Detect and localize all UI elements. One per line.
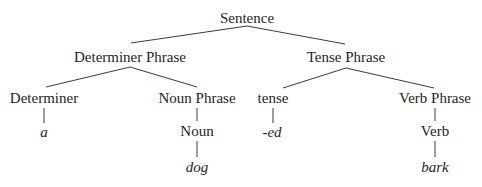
node-determiner: Determiner [10, 91, 78, 106]
leaf-a: a [40, 125, 48, 140]
leaf-bark: bark [421, 160, 449, 175]
syntax-tree-diagram: Sentence Determiner Phrase Tense Phrase … [0, 0, 482, 187]
leaf-dog: dog [186, 160, 209, 175]
node-verb-phrase: Verb Phrase [399, 91, 471, 106]
edge-determiner-phrase-noun-phrase [130, 67, 197, 87]
edge-sentence-determiner-phrase [131, 26, 247, 43]
edge-tense-phrase-verb-phrase [346, 68, 434, 88]
node-tense-phrase: Tense Phrase [307, 50, 386, 65]
node-determiner-phrase: Determiner Phrase [74, 50, 186, 65]
edge-tense-phrase-tense [283, 68, 346, 88]
node-sentence: Sentence [220, 11, 274, 26]
node-verb: Verb [421, 124, 449, 139]
edge-sentence-tense-phrase [247, 26, 345, 44]
edge-determiner-phrase-determiner [46, 67, 130, 87]
leaf-ed: -ed [262, 125, 281, 140]
node-noun-phrase: Noun Phrase [158, 91, 235, 106]
node-tense: tense [258, 91, 289, 106]
node-noun: Noun [180, 124, 213, 139]
